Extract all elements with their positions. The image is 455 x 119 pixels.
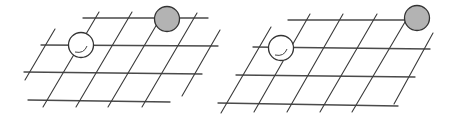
right-grid-col-4	[320, 14, 377, 112]
right-board	[218, 6, 433, 114]
right-grid-col-1	[221, 27, 271, 113]
left-gray-stone	[155, 7, 180, 32]
right-grid-col-6	[394, 33, 433, 104]
left-board	[24, 7, 220, 108]
left-grid-row-4	[28, 100, 170, 102]
left-grid-col-2	[43, 12, 99, 107]
right-grid-row-4	[218, 103, 398, 106]
right-grid-row-3	[236, 75, 415, 77]
left-grid-row-2	[41, 45, 218, 46]
right-grid-col-3	[287, 14, 343, 112]
left-grid-row-3	[24, 72, 202, 74]
right-gray-stone	[405, 6, 430, 31]
right-white-stone	[269, 36, 294, 61]
figure	[0, 0, 455, 119]
right-grid-col-2	[254, 14, 310, 112]
left-grid-col-6	[182, 30, 220, 96]
left-grid-col-4	[108, 19, 160, 107]
left-grid-col-3	[76, 12, 132, 107]
left-white-stone	[69, 33, 94, 58]
